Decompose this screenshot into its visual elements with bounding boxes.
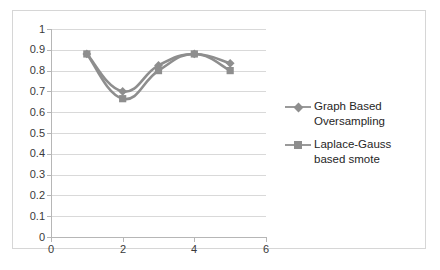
chart-container: 00.10.20.30.40.50.60.70.80.91 0246 Graph… xyxy=(12,10,426,249)
legend-label: Graph Based Oversampling xyxy=(314,99,423,128)
y-axis-tick-label: 0 xyxy=(39,232,45,243)
y-axis-tick-label: 0.1 xyxy=(30,211,45,222)
y-axis-tick-label: 0.9 xyxy=(30,44,45,55)
y-axis-tick-label: 0.2 xyxy=(30,190,45,201)
x-axis-line xyxy=(51,237,267,238)
y-axis-tick-label: 0.8 xyxy=(30,65,45,76)
x-axis-tick-label: 0 xyxy=(48,244,54,255)
y-axis-tick-label: 0.5 xyxy=(30,128,45,139)
legend-entry-graph-based-oversampling[interactable]: Graph Based Oversampling xyxy=(285,99,423,128)
y-axis-tick-label: 0.4 xyxy=(30,148,45,159)
x-tick-mark xyxy=(266,238,267,242)
x-tick-mark xyxy=(123,238,124,242)
y-axis-labels: 00.10.20.30.40.50.60.70.80.91 xyxy=(13,11,45,248)
legend-entry-laplace-gauss-based-smote[interactable]: Laplace-Gauss based smote xyxy=(285,137,423,166)
data-point-square-marker xyxy=(83,50,90,57)
chart-legend: Graph Based Oversampling Laplace-Gauss b… xyxy=(285,99,423,175)
legend-label: Laplace-Gauss based smote xyxy=(314,137,423,166)
series-line xyxy=(87,54,230,99)
data-point-square-marker xyxy=(227,67,234,74)
data-point-square-marker xyxy=(191,50,198,57)
data-point-square-marker xyxy=(155,67,162,74)
series-layer xyxy=(51,29,266,237)
legend-key-square-icon xyxy=(285,138,311,152)
data-point-square-marker xyxy=(119,95,126,102)
x-axis-tick-label: 2 xyxy=(120,244,126,255)
y-axis-tick-label: 0.7 xyxy=(30,86,45,97)
x-axis-tick-label: 4 xyxy=(191,244,197,255)
y-axis-tick-label: 1 xyxy=(39,24,45,35)
x-tick-mark xyxy=(194,238,195,242)
y-axis-tick-label: 0.3 xyxy=(30,169,45,180)
x-axis-tick-label: 6 xyxy=(263,244,269,255)
data-point-diamond-marker xyxy=(118,87,127,96)
legend-key-diamond-icon xyxy=(285,100,311,114)
data-point-diamond-marker xyxy=(226,59,235,68)
x-tick-mark xyxy=(51,238,52,242)
y-axis-tick-label: 0.6 xyxy=(30,107,45,118)
plot-area xyxy=(51,29,266,237)
